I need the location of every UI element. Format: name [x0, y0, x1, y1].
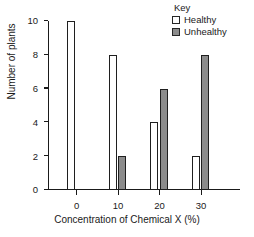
legend-title: Key — [174, 2, 252, 13]
x-tick: 10 — [118, 190, 119, 195]
plot-area: 0246810 0102030 — [48, 21, 240, 190]
x-tick: 20 — [159, 190, 160, 195]
x-tick-label: 30 — [196, 200, 207, 211]
bar-unhealthy-30 — [201, 55, 209, 190]
y-tick: 10 — [44, 20, 48, 21]
x-axis-title: Concentration of Chemical X (%) — [0, 214, 254, 225]
y-axis-line — [48, 21, 49, 190]
bar-healthy-20 — [150, 122, 158, 190]
y-tick: 2 — [44, 155, 48, 156]
y-tick-label: 4 — [33, 116, 38, 127]
bar-healthy-10 — [109, 55, 117, 190]
x-tick: 0 — [76, 190, 77, 195]
bar-healthy-30 — [192, 156, 200, 190]
bar-unhealthy-10 — [118, 156, 126, 190]
y-tick-label: 2 — [33, 150, 38, 161]
y-tick-label: 6 — [33, 83, 38, 94]
y-tick: 4 — [44, 121, 48, 122]
y-axis-title: Number of plants — [6, 2, 17, 122]
bar-chart: Key Healthy Unhealthy 0246810 0102030 Nu… — [0, 0, 254, 237]
bar-unhealthy-20 — [160, 89, 168, 190]
x-tick-label: 10 — [113, 200, 124, 211]
y-tick: 0 — [44, 189, 48, 190]
y-tick-label: 0 — [33, 184, 38, 195]
x-tick-label: 0 — [74, 200, 79, 211]
y-tick-label: 8 — [33, 49, 38, 60]
y-tick: 8 — [44, 54, 48, 55]
y-tick-label: 10 — [27, 15, 38, 26]
x-tick: 30 — [201, 190, 202, 195]
bar-healthy-0 — [67, 21, 75, 190]
y-tick: 6 — [44, 87, 48, 88]
x-tick-label: 20 — [154, 200, 165, 211]
